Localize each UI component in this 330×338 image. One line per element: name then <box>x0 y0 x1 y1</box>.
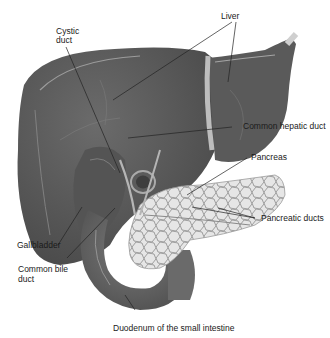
label-liver: Liver <box>221 11 239 21</box>
label-pancreatic-ducts: Pancreatic ducts <box>261 213 324 223</box>
anatomy-diagram: Liver Cystic duct Common hepatic duct Pa… <box>0 0 330 338</box>
label-gallbladder: Gallbladder <box>17 240 60 250</box>
label-cystic-duct-line2: duct <box>56 35 72 45</box>
label-common-hepatic-duct: Common hepatic duct <box>243 121 326 131</box>
label-pancreas: Pancreas <box>251 152 287 162</box>
label-common-bile-duct-line1: Common bile <box>18 264 68 274</box>
label-duodenum: Duodenum of the small intestine <box>113 323 234 333</box>
label-common-bile-duct-line2: duct <box>18 274 34 284</box>
organ-illustration <box>0 0 330 338</box>
